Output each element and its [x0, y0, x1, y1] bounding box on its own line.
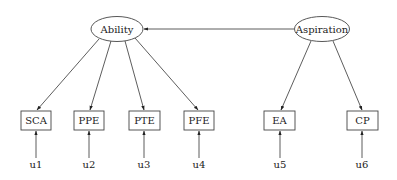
observed-nodes-layer: SCAPPEPTEPFEEACP [21, 111, 378, 130]
observed-node-cp: CP [347, 111, 378, 130]
edge-ability-to-pfe [135, 38, 198, 110]
observed-node-pte: PTE [129, 111, 160, 130]
error-term-u3: u3 [138, 159, 151, 170]
edge-aspiration-to-ea [281, 41, 311, 110]
observed-label: EA [272, 115, 287, 126]
observed-node-pfe: PFE [184, 111, 214, 130]
observed-label: PPE [79, 115, 100, 126]
latent-node-ability: Ability [91, 17, 143, 42]
observed-label: SCA [25, 115, 48, 126]
latent-node-aspiration: Aspiration [295, 17, 350, 42]
observed-label: PTE [134, 115, 155, 126]
error-term-u2: u2 [83, 159, 96, 170]
edge-ability-to-pte [125, 41, 144, 110]
observed-node-sca: SCA [21, 111, 51, 130]
edge-ability-to-ppe [90, 41, 111, 110]
edge-aspiration-to-cp [333, 41, 362, 110]
observed-label: CP [355, 115, 370, 126]
edge-ability-to-sca [37, 39, 99, 110]
error-term-u1: u1 [30, 159, 43, 170]
error-term-u5: u5 [274, 159, 287, 170]
observed-node-ea: EA [264, 111, 295, 130]
latent-label: Aspiration [295, 24, 349, 35]
edges-layer [36, 29, 362, 158]
observed-node-ppe: PPE [74, 111, 104, 130]
error-term-u4: u4 [193, 159, 206, 170]
sem-diagram: AbilityAspiration SCAPPEPTEPFEEACP u1u2u… [0, 0, 397, 180]
observed-label: PFE [189, 115, 210, 126]
latent-label: Ability [100, 24, 134, 35]
error-term-u6: u6 [356, 159, 369, 170]
error-terms-layer: u1u2u3u4u5u6 [30, 159, 369, 170]
